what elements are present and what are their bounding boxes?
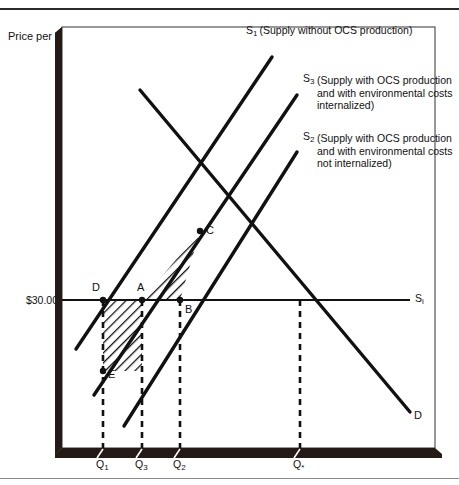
curve-label-s2: S2 (Supply with OCS production and with … (303, 130, 455, 170)
x-axis-block (55, 448, 442, 458)
curve-label-s2-symbol: S2 (303, 130, 314, 145)
point-marker-D (100, 297, 106, 303)
curve-label-s3-symbol: S3 (303, 72, 314, 87)
point-label-A: A (137, 281, 144, 293)
x-tick-label-qstar: Q* (293, 458, 304, 470)
point-marker-C (197, 228, 203, 234)
curve-label-s1-text: (Supply without OCS production) (257, 24, 412, 36)
x-tick-label-q3: Q3 (135, 458, 148, 470)
figure-canvas: Price per Barrel $30.00 (0, 0, 459, 485)
point-marker-B (177, 297, 183, 303)
curve-label-s1: S1(Supply without OCS production) (246, 24, 412, 39)
curve-label-si: Si (415, 292, 424, 304)
y-axis-block (55, 27, 62, 454)
curve-label-s2-text: (Supply with OCS production and with env… (303, 132, 455, 170)
point-label-C: C (206, 224, 214, 236)
curve-label-s3: S3 (Supply with OCS production and with … (303, 72, 453, 112)
x-tick-label-q2: Q2 (173, 458, 186, 470)
point-label-D: D (92, 281, 100, 293)
x-tick-label-q1: Q1 (96, 458, 109, 470)
point-label-E: E (108, 368, 115, 380)
point-marker-E (100, 368, 106, 374)
curve-label-s1-symbol: S1 (246, 24, 257, 39)
point-label-B: B (185, 303, 192, 315)
point-marker-A (139, 297, 145, 303)
curve-label-s3-text: (Supply with OCS production and with env… (303, 74, 453, 112)
curve-label-demand: D (414, 409, 422, 421)
